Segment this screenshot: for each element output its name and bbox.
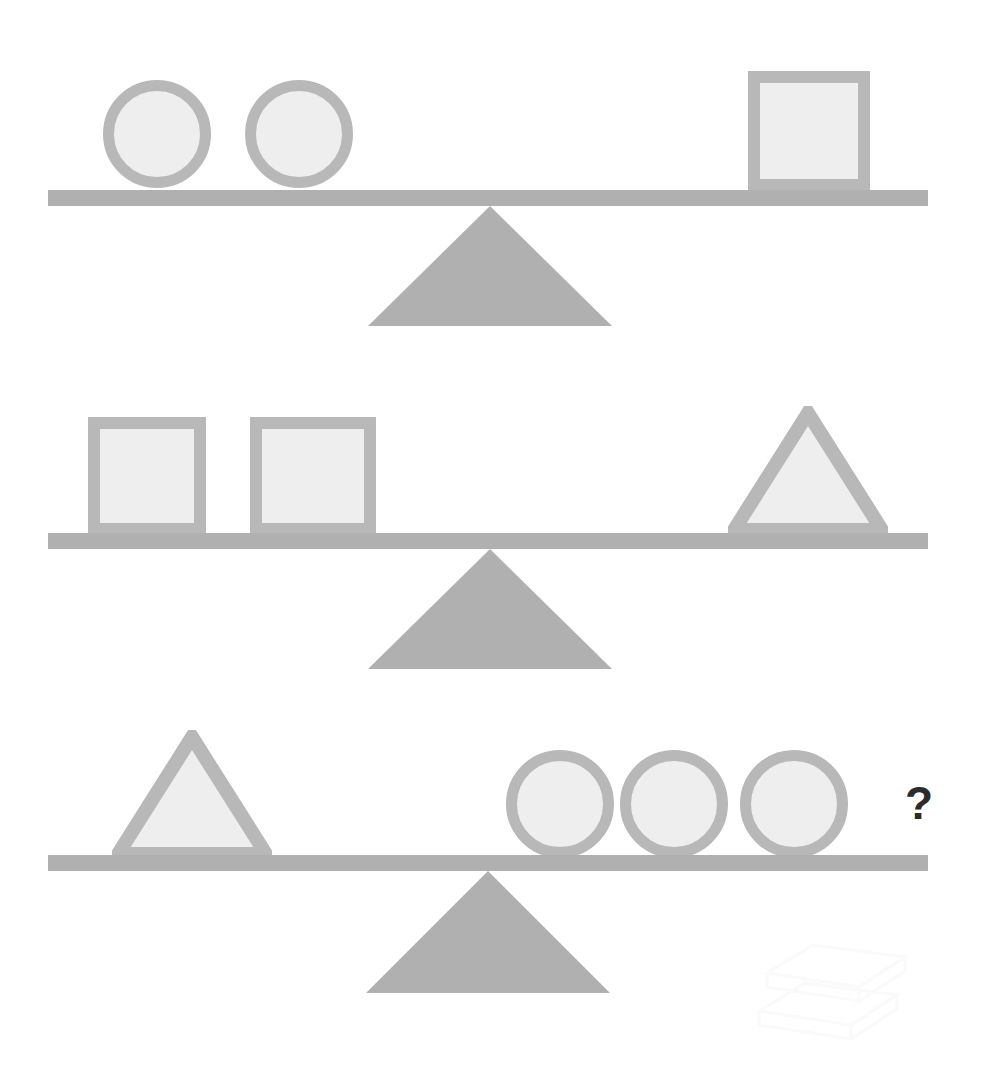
row3-fulcrum [366, 871, 610, 993]
row3-triangle-1 [112, 730, 272, 860]
balance-puzzle-canvas: ? [0, 0, 982, 1075]
row3-triangle-glyph [112, 730, 272, 860]
balance-row-3: ? [0, 0, 982, 1075]
question-mark: ? [905, 780, 933, 826]
row3-beam [48, 855, 928, 871]
row3-circle-1 [506, 750, 614, 858]
row3-circle-3 [740, 750, 848, 858]
row3-circle-2 [620, 750, 728, 858]
